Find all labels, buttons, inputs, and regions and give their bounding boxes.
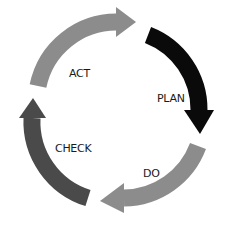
check-label: CHECK — [55, 142, 91, 155]
act-label: ACT — [69, 67, 90, 80]
plan-label: PLAN — [157, 92, 185, 105]
do-label: DO — [143, 167, 160, 180]
plan-arrow — [148, 35, 214, 134]
pdca-cycle — [0, 0, 228, 227]
